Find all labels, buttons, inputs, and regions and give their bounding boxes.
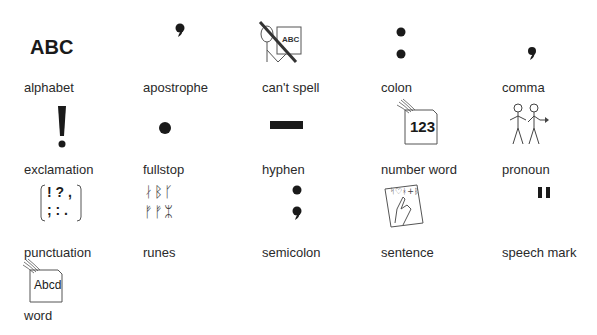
symbol-sentence[interactable]: ᛋ♡ᚼ+ᛒ sentence — [381, 183, 491, 263]
symbol-label: speech mark — [502, 245, 576, 260]
abc-text-icon: ABC — [24, 18, 134, 78]
symbol-punctuation[interactable]: ! ? , ; : . punctuation — [24, 183, 134, 263]
symbol-label: runes — [143, 245, 176, 260]
symbol-speech-mark[interactable]: speech mark — [502, 183, 597, 263]
symbol-alphabet[interactable]: ABC alphabet — [24, 18, 134, 98]
symbol-apostrophe[interactable]: apostrophe — [143, 18, 253, 98]
symbol-label: fullstop — [143, 162, 184, 177]
pronoun-people-icon — [502, 100, 597, 160]
punctuation-bracket-icon: ! ? , ; : . — [24, 183, 134, 243]
symbol-label: sentence — [381, 245, 434, 260]
symbol-fullstop[interactable]: fullstop — [143, 100, 253, 180]
sentence-hand-icon: ᛋ♡ᚼ+ᛒ — [381, 183, 491, 243]
symbol-label: alphabet — [24, 80, 74, 95]
symbol-label: number word — [381, 162, 457, 177]
symbol-label: word — [24, 308, 52, 323]
symbol-label: comma — [502, 80, 545, 95]
cant-spell-icon: ABC — [262, 18, 372, 78]
colon-icon — [381, 18, 491, 78]
symbol-label: can't spell — [262, 80, 319, 95]
symbol-label: pronoun — [502, 162, 550, 177]
symbol-cant-spell[interactable]: ABC can't spell — [262, 18, 372, 98]
symbol-label: apostrophe — [143, 80, 208, 95]
symbol-semicolon[interactable]: semicolon — [262, 183, 372, 263]
symbol-label: semicolon — [262, 245, 321, 260]
symbol-comma[interactable]: comma — [502, 18, 597, 98]
hyphen-icon — [262, 100, 372, 160]
symbol-exclamation[interactable]: exclamation — [24, 100, 134, 180]
speech-mark-icon — [502, 183, 597, 243]
symbol-colon[interactable]: colon — [381, 18, 491, 98]
number-card-icon: 123 — [381, 100, 491, 160]
symbol-label: exclamation — [24, 162, 93, 177]
semicolon-icon — [262, 183, 372, 243]
apostrophe-icon — [143, 18, 253, 78]
symbol-hyphen[interactable]: hyphen — [262, 100, 372, 180]
symbol-label: hyphen — [262, 162, 305, 177]
symbol-runes[interactable]: ᛅᛒᚴ ᚠᚠᛯ runes — [143, 183, 253, 263]
symbol-label: colon — [381, 80, 412, 95]
symbol-word[interactable]: Abcd word — [24, 264, 134, 335]
comma-icon — [502, 18, 597, 78]
symbol-pronoun[interactable]: pronoun — [502, 100, 597, 180]
runes-icon: ᛅᛒᚴ ᚠᚠᛯ — [143, 183, 253, 243]
exclamation-icon — [24, 100, 134, 160]
symbol-number-word[interactable]: 123 number word — [381, 100, 491, 180]
fullstop-icon — [143, 100, 253, 160]
